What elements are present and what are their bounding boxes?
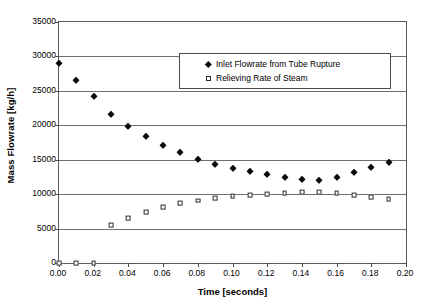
chart-figure: Mass Flowrate [kg/h] 0500010000150002000…: [0, 0, 427, 308]
y-tick-label: 15000: [22, 154, 56, 163]
x-tick-mark: [233, 263, 234, 267]
legend-entry-label: Inlet Flowrate from Tube Rupture: [214, 60, 340, 69]
gridline: [59, 91, 406, 92]
gridline: [59, 229, 406, 230]
data-point: [317, 190, 322, 195]
data-point: [247, 192, 252, 197]
data-point: [90, 93, 96, 99]
chart-legend: Inlet Flowrate from Tube Rupture Relievi…: [179, 53, 391, 89]
x-tick-mark: [267, 263, 268, 267]
data-point: [125, 122, 131, 128]
data-point: [161, 205, 166, 210]
data-point: [369, 195, 374, 200]
data-point: [334, 191, 339, 196]
x-tick-mark: [337, 263, 338, 267]
y-tick-label: 35000: [22, 17, 56, 26]
gridline: [59, 160, 406, 161]
x-tick-mark: [128, 263, 129, 267]
data-point: [247, 168, 253, 174]
data-point: [230, 194, 235, 199]
legend-entry-relieving-rate: Relieving Rate of Steam: [202, 72, 390, 85]
y-tick-mark: [55, 229, 59, 230]
data-point: [56, 60, 62, 66]
y-tick-mark: [55, 194, 59, 195]
data-point: [195, 155, 201, 161]
data-point: [282, 190, 287, 195]
y-tick-label: 0: [22, 258, 56, 267]
data-point: [281, 173, 287, 179]
data-point: [143, 210, 148, 215]
data-point: [299, 175, 305, 181]
x-tick-mark: [371, 263, 372, 267]
data-point: [299, 190, 304, 195]
y-tick-label: 10000: [22, 189, 56, 198]
y-tick-mark: [55, 91, 59, 92]
data-point: [126, 215, 131, 220]
data-point: [57, 261, 62, 266]
y-axis-title-text: Mass Flowrate [kg/h]: [6, 87, 17, 183]
x-tick-mark: [406, 263, 407, 267]
open-square-icon: [202, 76, 214, 81]
gridline: [59, 125, 406, 126]
data-point: [177, 149, 183, 155]
x-tick-mark: [163, 263, 164, 267]
data-point: [74, 261, 79, 266]
legend-entry-inlet-flowrate: Inlet Flowrate from Tube Rupture: [202, 58, 390, 71]
data-point: [333, 174, 339, 180]
y-tick-mark: [55, 125, 59, 126]
plot-area: Inlet Flowrate from Tube Rupture Relievi…: [58, 21, 407, 264]
data-point: [178, 201, 183, 206]
y-tick-label: 30000: [22, 51, 56, 60]
data-point: [368, 163, 374, 169]
y-tick-mark: [55, 22, 59, 23]
y-tick-mark: [55, 160, 59, 161]
legend-entry-label: Relieving Rate of Steam: [214, 74, 308, 83]
data-point: [352, 192, 357, 197]
data-point: [351, 169, 357, 175]
data-point: [212, 161, 218, 167]
data-point: [195, 198, 200, 203]
x-axis-title: Time [seconds]: [58, 286, 407, 297]
data-point: [316, 176, 322, 182]
y-tick-label: 25000: [22, 86, 56, 95]
data-point: [91, 261, 96, 266]
data-point: [143, 133, 149, 139]
y-tick-mark: [55, 56, 59, 57]
data-point: [160, 142, 166, 148]
y-axis-tick-labels: 05000100001500020000250003000035000: [18, 0, 56, 308]
x-tick-mark: [198, 263, 199, 267]
x-tick-label: 0.20: [385, 268, 425, 278]
data-point: [229, 164, 235, 170]
filled-diamond-icon: [202, 62, 214, 67]
data-point: [386, 197, 391, 202]
data-point: [264, 171, 270, 177]
data-point: [108, 110, 114, 116]
x-axis-tick-labels: 0.000.020.040.060.080.100.120.140.160.18…: [58, 268, 407, 280]
y-tick-label: 5000: [22, 223, 56, 232]
data-point: [73, 77, 79, 83]
data-point: [109, 223, 114, 228]
x-tick-mark: [302, 263, 303, 267]
data-point: [213, 196, 218, 201]
data-point: [265, 191, 270, 196]
y-tick-label: 20000: [22, 120, 56, 129]
